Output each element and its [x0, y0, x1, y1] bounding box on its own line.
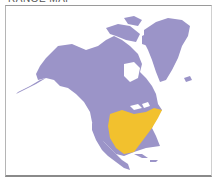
aleutian-islands	[16, 78, 46, 94]
range-map	[6, 6, 211, 175]
caribbean-islands	[134, 154, 148, 158]
map-frame	[5, 5, 212, 177]
greenland	[144, 18, 190, 82]
land-range	[16, 16, 192, 170]
us-highlight-area	[108, 108, 162, 154]
map-caption: RANGE MAP	[8, 0, 73, 4]
highlight-range	[108, 108, 162, 154]
